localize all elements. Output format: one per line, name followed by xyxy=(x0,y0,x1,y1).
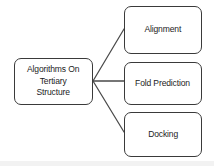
diagram-canvas: Algorithms On Tertiary Structure Alignme… xyxy=(0,0,214,166)
connector-root-to-docking xyxy=(93,81,124,132)
connector-root-to-alignment xyxy=(93,29,124,81)
node-algorithms-on-tertiary-structure[interactable]: Algorithms On Tertiary Structure xyxy=(14,58,93,105)
bottom-edge-band xyxy=(0,161,214,166)
node-alignment[interactable]: Alignment xyxy=(124,6,202,54)
node-label-fold-prediction: Fold Prediction xyxy=(134,78,193,90)
node-label-root: Algorithms On Tertiary Structure xyxy=(25,64,81,99)
node-label-alignment: Alignment xyxy=(143,24,183,36)
node-docking[interactable]: Docking xyxy=(124,112,202,157)
node-label-docking: Docking xyxy=(146,129,180,141)
node-fold-prediction[interactable]: Fold Prediction xyxy=(124,62,202,105)
